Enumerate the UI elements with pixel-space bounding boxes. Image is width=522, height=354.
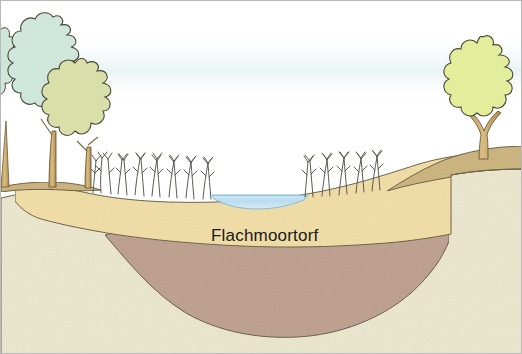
cross-section-svg <box>1 1 522 354</box>
illustration-canvas: Flachmoortorf <box>0 0 522 354</box>
stratum-label-flachmoortorf: Flachmoortorf <box>211 226 318 246</box>
